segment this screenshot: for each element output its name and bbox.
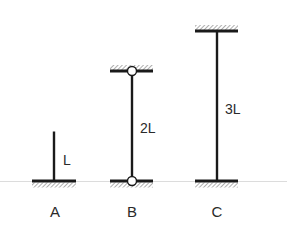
column-b-length-label: 2L [140, 120, 156, 136]
column-a: L A [32, 132, 76, 221]
column-c-name-label: C [212, 203, 223, 220]
column-c-base-hatch [195, 183, 238, 188]
column-b: 2L B [110, 65, 156, 220]
column-b-name-label: B [127, 203, 137, 220]
column-b-top-pin-icon [128, 67, 137, 76]
column-c-top-hatch [195, 25, 238, 30]
column-c: 3L C [195, 25, 241, 220]
column-diagram: L A 2L B 3L C [0, 0, 287, 235]
column-b-bottom-pin-icon [128, 177, 137, 186]
column-a-name-label: A [50, 203, 60, 220]
column-a-length-label: L [63, 152, 71, 168]
column-c-length-label: 3L [225, 101, 241, 117]
column-a-base-hatch [32, 183, 76, 188]
